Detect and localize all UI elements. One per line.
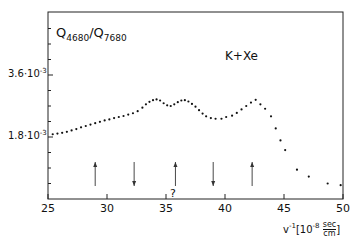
data-point	[250, 101, 252, 103]
data-point	[231, 115, 233, 117]
data-point	[108, 118, 110, 120]
y-tick-label-3.6: 3.6·10-3	[8, 67, 47, 79]
y-axis-ticks	[48, 29, 53, 184]
data-point	[145, 103, 147, 105]
data-point	[279, 139, 281, 141]
x-tick-label: 45	[277, 202, 291, 215]
data-point	[201, 112, 203, 114]
x-tick-label: 50	[336, 202, 350, 215]
data-point	[194, 106, 196, 108]
question-mark-label: ?	[170, 187, 176, 200]
data-point	[187, 100, 189, 102]
x-tick-label: 25	[41, 202, 55, 215]
data-point	[99, 121, 101, 123]
data-point	[132, 112, 134, 114]
data-point	[89, 124, 91, 126]
data-point	[240, 108, 242, 110]
data-point	[270, 115, 272, 117]
arrow-up-icon	[173, 162, 177, 167]
data-point	[148, 101, 150, 103]
data-point	[66, 131, 68, 133]
x-axis-ticks	[48, 194, 343, 199]
data-point	[137, 110, 139, 112]
data-point	[210, 117, 212, 119]
data-point	[113, 117, 115, 119]
data-point	[191, 103, 193, 105]
data-point	[141, 107, 143, 109]
data-point	[340, 184, 342, 186]
data-point	[71, 129, 73, 131]
data-point	[61, 132, 63, 134]
data-point	[163, 102, 165, 104]
data-point	[327, 182, 329, 184]
marker-arrows	[93, 162, 254, 186]
data-point	[214, 118, 216, 120]
data-point	[184, 99, 186, 101]
data-point	[264, 108, 266, 110]
data-point	[284, 149, 286, 151]
x-axis-label: v-1[10-8 sec cm ]	[283, 221, 340, 238]
y-axis-label: Q4680/Q7680	[56, 25, 127, 43]
data-point	[94, 122, 96, 124]
data-point	[205, 115, 207, 117]
data-point	[173, 103, 175, 105]
data-point	[180, 99, 182, 101]
data-point	[152, 99, 154, 101]
data-point	[155, 98, 157, 100]
arrow-down-icon	[211, 181, 215, 186]
data-point	[225, 116, 227, 118]
data-point	[75, 128, 77, 130]
data-point	[296, 169, 298, 171]
data-point	[104, 119, 106, 121]
data-point	[118, 116, 120, 118]
data-point	[245, 105, 247, 107]
data-point	[236, 112, 238, 114]
arrow-up-icon	[250, 162, 254, 167]
x-tick-label: 35	[159, 202, 173, 215]
data-point	[85, 125, 87, 127]
data-point	[220, 118, 222, 120]
data-point	[80, 126, 82, 128]
data-point	[122, 115, 124, 117]
data-point	[255, 99, 257, 101]
x-tick-label: 30	[100, 202, 114, 215]
arrow-up-icon	[93, 162, 97, 167]
y-tick-label-1.8: 1.8·10-3	[8, 129, 47, 141]
data-point	[56, 132, 58, 134]
data-point	[198, 109, 200, 111]
data-point	[170, 105, 172, 107]
series-annotation: K+Xe	[225, 49, 258, 63]
data-point	[52, 133, 54, 135]
data-point	[275, 127, 277, 129]
data-point	[177, 101, 179, 103]
data-point	[127, 114, 129, 116]
data-point	[159, 99, 161, 101]
arrow-down-icon	[132, 181, 136, 186]
x-tick-label: 40	[218, 202, 232, 215]
data-point	[308, 176, 310, 178]
data-point	[259, 103, 261, 105]
data-point	[166, 104, 168, 106]
